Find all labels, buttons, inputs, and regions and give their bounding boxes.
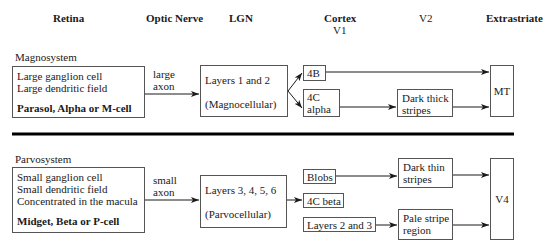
magno-lgn-line2: (Magnocellular) [205, 98, 287, 110]
magno-retina-line1: Large ganglion cell [17, 70, 144, 82]
magno-v2-box: Dark thick stripes [397, 89, 453, 117]
parvo-retina-box: Small ganglion cell Small dendritic fiel… [12, 167, 145, 233]
parvo-v1-blobs-label: Blobs [307, 171, 335, 183]
magno-v2-line2: stripes [402, 104, 452, 116]
parvo-lgn-line2: (Parvocellular) [205, 208, 286, 220]
parvo-lgn-line1: Layers 3, 4, 5, 6 [205, 184, 286, 196]
magno-lgn-line1: Layers 1 and 2 [205, 74, 287, 86]
parvo-axon-label-1: small [153, 174, 177, 186]
magno-v1-4b-box: 4B [303, 65, 326, 81]
parvo-retina-line3: Concentrated in the macula [17, 195, 144, 207]
magnosystem-title: Magnosystem [15, 51, 77, 63]
parvo-retina-line1: Small ganglion cell [17, 171, 144, 183]
parvo-lgn-box: Layers 3, 4, 5, 6 (Parvocellular) [200, 175, 287, 228]
parvo-retina-cell-type: Midget, Beta or P-cell [17, 215, 144, 227]
parvo-v2-pale-stripe-box: Pale stripe region [398, 209, 453, 240]
parvo-v2-pale-stripe-line2: region [403, 224, 452, 236]
magno-lgn-box: Layers 1 and 2 (Magnocellular) [200, 65, 288, 117]
magno-v1-4c-line1: 4C [307, 91, 339, 103]
parvo-v2-dark-thin-line1: Dark thin [403, 161, 452, 173]
magno-v1-4c-alpha-box: 4C alpha [303, 89, 340, 117]
magno-retina-box: Large ganglion cell Large dendritic fiel… [12, 66, 145, 118]
magno-retina-line2: Large dendritic field [17, 82, 144, 94]
parvo-v2-dark-thin-line2: stripes [403, 173, 452, 185]
magno-retina-cell-type: Parasol, Alpha or M-cell [17, 102, 144, 114]
parvo-v1-layers-2-3-label: Layers 2 and 3 [307, 219, 375, 231]
parvo-v4-label: V4 [495, 193, 508, 205]
parvo-v1-4c-beta-box: 4C beta [303, 193, 344, 208]
parvo-axon-label-2: axon [153, 186, 174, 198]
parvo-v4-box: V4 [490, 158, 514, 240]
magno-v2-line1: Dark thick [402, 92, 452, 104]
parvo-v1-blobs-box: Blobs [303, 169, 336, 184]
magno-v1-4b-label: 4B [307, 67, 325, 79]
magno-axon-label-2: axon [153, 80, 174, 92]
parvosystem-title: Parvosystem [15, 153, 71, 165]
magno-mt-label: MT [494, 85, 511, 97]
parvo-v1-4c-beta-label: 4C beta [307, 195, 343, 207]
parvo-retina-line2: Small dendritic field [17, 183, 144, 195]
magno-mt-box: MT [490, 65, 514, 117]
magno-v1-4c-line2: alpha [307, 103, 339, 115]
parvo-v2-pale-stripe-line1: Pale stripe [403, 212, 452, 224]
magno-axon-label-1: large [153, 68, 175, 80]
parvo-v2-dark-thin-box: Dark thin stripes [398, 158, 453, 188]
parvo-v1-layers-2-3-box: Layers 2 and 3 [303, 217, 376, 232]
